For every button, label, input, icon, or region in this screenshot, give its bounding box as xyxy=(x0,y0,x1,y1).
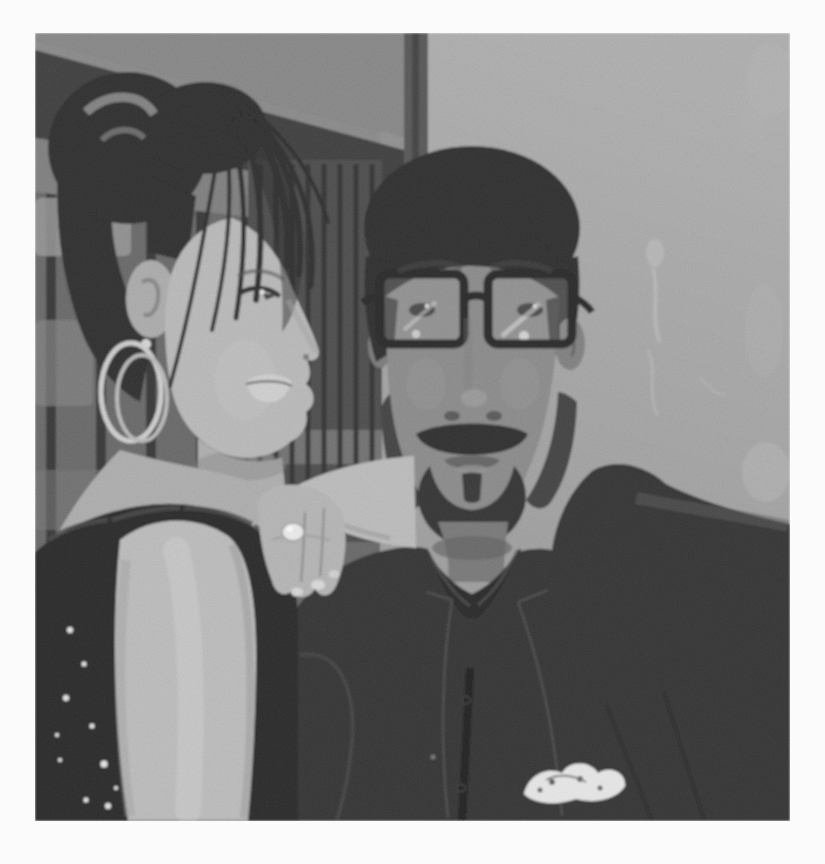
scanned-photo-page xyxy=(0,0,825,864)
film-grain-overlay xyxy=(35,33,790,821)
photo-canvas xyxy=(0,0,825,864)
